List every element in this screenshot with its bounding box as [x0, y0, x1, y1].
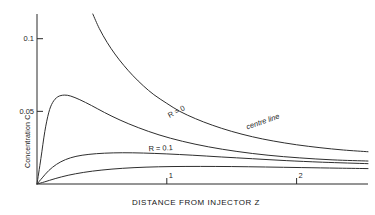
x-axis-ticks — [167, 178, 297, 184]
chart-figure: 0.1 0.05 1 2 Concentration C DISTANCE FR… — [0, 0, 375, 215]
y-axis-title: Concentration C — [24, 114, 31, 168]
curve-label-r-0-1: R = 0.1 — [148, 143, 173, 153]
x-axis-title: DISTANCE FROM INJECTOR Z — [132, 198, 260, 207]
axes-group — [37, 14, 368, 184]
concentration-decay-chart: 0.1 0.05 1 2 Concentration C DISTANCE FR… — [0, 0, 375, 215]
y-tick-label-0-1: 0.1 — [24, 34, 34, 43]
x-tick-label-1: 1 — [169, 171, 173, 180]
curve-label-r-0: R = 0 — [166, 103, 186, 119]
curve-centre-line — [93, 14, 368, 152]
curve-lower — [37, 166, 368, 184]
y-axis-ticks — [37, 39, 43, 112]
curve-r-0-1 — [37, 153, 368, 184]
curve-r-0 — [37, 95, 368, 184]
curves-group — [37, 14, 368, 184]
x-tick-label-2: 2 — [299, 171, 303, 180]
curve-annotations: R = 0 centre line R = 0.1 — [148, 103, 280, 153]
curve-label-centre-line: centre line — [245, 112, 281, 132]
